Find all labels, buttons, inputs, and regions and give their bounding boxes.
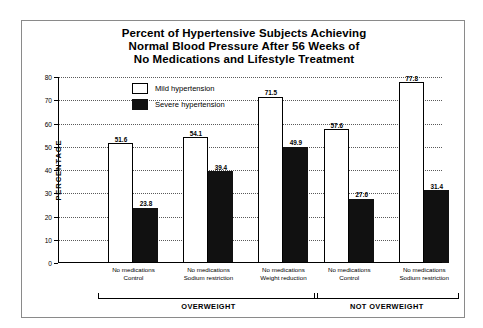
legend-swatch-mild-icon bbox=[132, 83, 148, 94]
y-axis-tick-label: 50 bbox=[45, 143, 52, 150]
bar-value-label: 23.8 bbox=[140, 200, 152, 207]
chart-legend: Mild hypertension Severe hypertension bbox=[132, 83, 225, 115]
y-axis-tick bbox=[54, 240, 58, 241]
chart-frame: Percent of Hypertensive Subjects Achievi… bbox=[21, 20, 465, 318]
plot-area: 01020304050607080 PERCENTAGE 51.623.854.… bbox=[58, 77, 442, 263]
legend-item-severe: Severe hypertension bbox=[132, 99, 225, 110]
bar-severe: 27.6 bbox=[349, 199, 374, 263]
chart-title-line-2: Normal Blood Pressure After 56 Weeks of bbox=[22, 40, 466, 53]
x-axis-category-label: No medicationsControl bbox=[93, 266, 173, 282]
bar-severe: 31.4 bbox=[424, 190, 449, 263]
bar-mild: 54.1 bbox=[183, 137, 208, 263]
gridline bbox=[58, 77, 442, 78]
y-axis-label: PERCENTAGE bbox=[54, 139, 63, 200]
legend-label-mild: Mild hypertension bbox=[155, 84, 215, 93]
y-axis-tick-label: 30 bbox=[45, 190, 52, 197]
group-bracket-label: OVERWEIGHT bbox=[98, 302, 318, 311]
legend-label-severe: Severe hypertension bbox=[155, 100, 225, 109]
bar-value-label: 54.1 bbox=[190, 130, 202, 137]
group-bracket bbox=[98, 293, 318, 299]
legend-swatch-severe-icon bbox=[132, 99, 148, 110]
y-axis-tick bbox=[54, 263, 58, 264]
bar-value-label: 71.5 bbox=[265, 89, 277, 96]
y-axis-tick-label: 20 bbox=[45, 213, 52, 220]
bar-mild: 71.5 bbox=[258, 97, 283, 263]
x-axis-category-label: No medicationsSodium restriction bbox=[384, 266, 464, 282]
y-axis-tick-label: 80 bbox=[45, 74, 52, 81]
y-axis-tick-label: 60 bbox=[45, 120, 52, 127]
y-axis-tick bbox=[54, 77, 58, 78]
gridline bbox=[58, 124, 442, 125]
gridline bbox=[58, 100, 442, 101]
bar-value-label: 31.4 bbox=[430, 183, 442, 190]
x-axis-category-labels: No medicationsControlNo medicationsSodiu… bbox=[58, 266, 442, 288]
bar-value-label: 27.6 bbox=[356, 191, 368, 198]
chart-title-line-3: No Medications and Lifestyle Treatment bbox=[22, 53, 466, 66]
y-axis-tick bbox=[54, 100, 58, 101]
bar-severe: 23.8 bbox=[133, 208, 158, 263]
bar-value-label: 39.4 bbox=[215, 164, 227, 171]
bar-severe: 49.9 bbox=[283, 147, 308, 263]
y-axis-tick-label: 40 bbox=[45, 167, 52, 174]
y-axis-tick-label: 10 bbox=[45, 236, 52, 243]
chart-title-line-1: Percent of Hypertensive Subjects Achievi… bbox=[22, 27, 466, 40]
x-axis-line bbox=[58, 262, 442, 263]
bar-mild: 57.6 bbox=[324, 129, 349, 263]
y-axis-tick bbox=[54, 217, 58, 218]
legend-item-mild: Mild hypertension bbox=[132, 83, 225, 94]
bar-severe: 39.4 bbox=[208, 171, 233, 263]
group-bracket-label: NOT OVERWEIGHT bbox=[314, 302, 459, 311]
group-brackets: OVERWEIGHTNOT OVERWEIGHT bbox=[58, 293, 442, 317]
x-axis-category-label: No medicationsControl bbox=[309, 266, 389, 282]
bar-value-label: 49.9 bbox=[290, 139, 302, 146]
y-axis-tick-label: 70 bbox=[45, 97, 52, 104]
chart-title: Percent of Hypertensive Subjects Achievi… bbox=[22, 27, 466, 67]
y-axis-tick-label: 0 bbox=[48, 260, 52, 267]
y-axis-tick bbox=[54, 124, 58, 125]
bar-mild: 77.8 bbox=[399, 82, 424, 263]
bar-mild: 51.6 bbox=[108, 143, 133, 263]
bar-value-label: 51.6 bbox=[115, 136, 127, 143]
bar-value-label: 57.6 bbox=[331, 122, 343, 129]
bar-value-label: 77.8 bbox=[405, 75, 417, 82]
x-axis-category-label: No medicationsSodium restriction bbox=[168, 266, 248, 282]
group-bracket bbox=[314, 293, 459, 299]
